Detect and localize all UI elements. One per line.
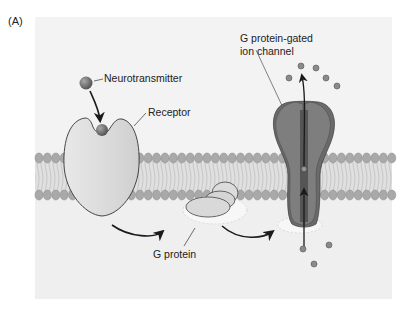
lipid-head [220, 153, 228, 163]
lipid-head [279, 190, 287, 200]
lipid-head [253, 190, 261, 200]
lipid-head [245, 153, 253, 163]
lipid-head [379, 190, 387, 200]
lipid-head [60, 190, 68, 200]
neurotransmitter [80, 77, 93, 90]
lipid-head [203, 153, 211, 163]
lipid-head [161, 153, 169, 163]
lipid-head [337, 190, 345, 200]
lipid-head [178, 153, 186, 163]
ion [326, 242, 332, 248]
lipid-head [178, 190, 186, 200]
lipid-head [363, 190, 371, 200]
diagram: (A)NeurotransmitterReceptorG proteinG pr… [0, 0, 411, 313]
ion [323, 75, 329, 81]
lipid-head [363, 153, 371, 163]
lipid-head [43, 190, 51, 200]
lipid-head [136, 190, 144, 200]
lipid-head [388, 190, 396, 200]
lipid-head [211, 153, 219, 163]
lipid-head [329, 153, 337, 163]
bound-neurotransmitter [96, 124, 108, 136]
lipid-head [371, 190, 379, 200]
lipid-head [195, 153, 203, 163]
ion [302, 167, 307, 172]
lipid-head [228, 153, 236, 163]
lipid-head [169, 153, 177, 163]
receptor-label: Receptor [148, 106, 191, 118]
lipid-head [52, 153, 60, 163]
lipid-head [329, 190, 337, 200]
lipid-head [388, 153, 396, 163]
lipid-head [270, 153, 278, 163]
lipid-head [346, 153, 354, 163]
lipid-head [35, 153, 43, 163]
lipid-head [346, 190, 354, 200]
lipid-head [144, 153, 152, 163]
lipid-head [153, 190, 161, 200]
ion [298, 63, 304, 69]
lipid-head [262, 153, 270, 163]
ion [286, 75, 292, 81]
lipid-head [237, 153, 245, 163]
neurotransmitter-label: Neurotransmitter [104, 72, 183, 84]
lipid-head [153, 153, 161, 163]
ion [334, 83, 340, 89]
ion [311, 261, 317, 267]
g-protein-label: G protein [153, 248, 196, 260]
lipid-head [270, 190, 278, 200]
lipid-head [354, 190, 362, 200]
lipid-head [186, 153, 194, 163]
lipid-head [35, 190, 43, 200]
panel-label: (A) [8, 15, 23, 27]
lipid-head [262, 190, 270, 200]
ion [313, 65, 319, 71]
lipid-head [43, 153, 51, 163]
lipid-head [169, 190, 177, 200]
channel-label-line2: ion channel [240, 45, 294, 57]
lipid-head [161, 190, 169, 200]
lipid-head [52, 190, 60, 200]
lipid-head [245, 190, 253, 200]
lipid-head [371, 153, 379, 163]
ion [300, 246, 306, 252]
lipid-head [354, 153, 362, 163]
lipid-head [253, 153, 261, 163]
lipid-head [379, 153, 387, 163]
lipid-head [186, 190, 194, 200]
lipid-head [144, 190, 152, 200]
channel-label-line1: G protein-gated [240, 32, 313, 44]
lipid-head [337, 153, 345, 163]
lipid-head [321, 190, 329, 200]
